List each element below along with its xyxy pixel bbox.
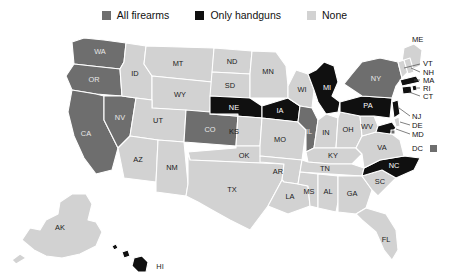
callout-label-DC: DC: [412, 144, 423, 153]
state-label-WI: WI: [297, 85, 306, 94]
callout-label-NJ: NJ: [412, 112, 421, 121]
state-label-OH: OH: [342, 125, 353, 134]
state-DC[interactable]: [391, 130, 395, 134]
legend-item-all-firearms: All firearms: [102, 10, 170, 21]
state-label-NE: NE: [229, 103, 239, 112]
state-label-IN: IN: [322, 128, 329, 137]
state-label-WY: WY: [174, 90, 186, 99]
us-choropleth-map: WA OR CA NV ID MT WY UT AZ CO NM ND SD N…: [0, 24, 449, 277]
state-label-KS: KS: [229, 127, 239, 136]
callout-label-ME: ME: [412, 35, 423, 44]
state-label-LA: LA: [285, 192, 294, 201]
state-label-NY: NY: [371, 74, 381, 83]
callout-swatch-DC: [430, 145, 437, 152]
state-NJ[interactable]: [392, 100, 400, 118]
state-label-SD: SD: [225, 81, 235, 90]
legend-label-none: None: [322, 10, 347, 21]
state-FL[interactable]: [356, 208, 398, 260]
state-label-AR: AR: [273, 167, 283, 176]
state-label-NC: NC: [389, 161, 400, 170]
state-label-TX: TX: [227, 185, 237, 194]
callout-label-VT: VT: [423, 59, 433, 68]
state-label-MT: MT: [173, 59, 184, 68]
callout-line-MD: [396, 129, 410, 134]
state-label-ND: ND: [227, 57, 238, 66]
state-label-PA: PA: [363, 101, 372, 110]
state-label-NM: NM: [166, 163, 178, 172]
state-label-AL: AL: [323, 187, 332, 196]
callout-line-DE: [400, 122, 410, 125]
state-label-MO: MO: [274, 135, 286, 144]
state-label-MS: MS: [303, 187, 314, 196]
state-label-ID: ID: [131, 69, 138, 78]
state-label-WV: WV: [361, 122, 373, 131]
legend-item-none: None: [307, 10, 347, 21]
state-label-NV: NV: [115, 113, 125, 122]
state-label-WA: WA: [94, 47, 106, 56]
legend-label-all-firearms: All firearms: [117, 10, 170, 21]
state-label-IL: IL: [306, 127, 312, 136]
state-label-GA: GA: [347, 189, 358, 198]
legend-swatch-only-handguns: [195, 11, 204, 20]
legend-label-only-handguns: Only handguns: [210, 10, 281, 21]
state-label-AZ: AZ: [133, 155, 143, 164]
state-label-MI: MI: [323, 83, 331, 92]
legend-swatch-none: [307, 11, 316, 20]
state-label-OK: OK: [239, 151, 250, 160]
legend-item-only-handguns: Only handguns: [195, 10, 281, 21]
state-label-FL: FL: [382, 235, 391, 244]
legend-swatch-all-firearms: [102, 11, 111, 20]
state-label-TN: TN: [320, 164, 330, 173]
state-label-MN: MN: [262, 67, 274, 76]
state-label-OR: OR: [88, 75, 99, 84]
state-label-VA: VA: [377, 143, 386, 152]
callout-label-CT: CT: [423, 92, 433, 101]
state-label-SC: SC: [375, 177, 386, 186]
callout-line-CT: [409, 92, 420, 96]
callout-label-MD: MD: [412, 130, 424, 139]
legend: All firearms Only handguns None: [0, 6, 449, 24]
state-label-IA: IA: [277, 106, 284, 115]
state-HI[interactable]: [112, 244, 148, 272]
callout-line-NJ: [399, 108, 410, 116]
state-label-UT: UT: [153, 116, 163, 125]
callout-label-DE: DE: [412, 121, 423, 130]
state-label-AK: AK: [55, 223, 65, 232]
state-label-KY: KY: [328, 151, 338, 160]
state-label-CO: CO: [204, 125, 215, 134]
map-figure: All firearms Only handguns None: [0, 0, 449, 277]
state-label-HI: HI: [156, 262, 163, 271]
state-label-CA: CA: [81, 129, 91, 138]
